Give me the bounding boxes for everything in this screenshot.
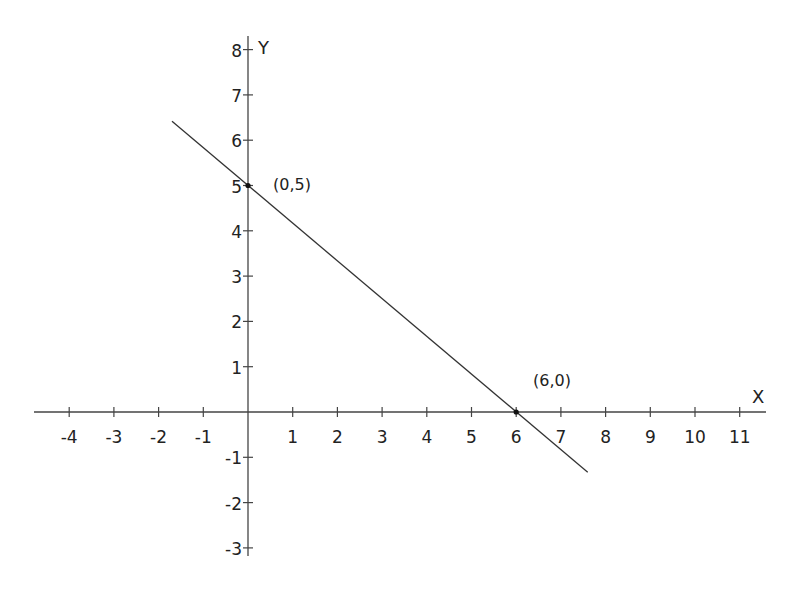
x-tick-label: 5 xyxy=(466,427,477,447)
y-axis-title: Y xyxy=(257,37,270,58)
x-tick-label: 11 xyxy=(729,427,751,447)
x-ticks: -4-3-2-11234567891011 xyxy=(61,407,751,447)
y-tick-label: -2 xyxy=(225,494,242,514)
y-tick-label: 3 xyxy=(231,267,242,287)
y-tick-label: 4 xyxy=(231,222,242,242)
x-tick-label: 8 xyxy=(600,427,611,447)
y-tick-label: 1 xyxy=(231,358,242,378)
line-series xyxy=(172,121,588,472)
y-tick-label: 8 xyxy=(231,41,242,61)
x-tick-label: 1 xyxy=(287,427,298,447)
coordinate-plane: -4-3-2-11234567891011 -3-2-112345678 X Y… xyxy=(0,0,808,592)
y-tick-label: 6 xyxy=(231,131,242,151)
point-label-x-intercept: (6,0) xyxy=(533,371,571,390)
y-tick-label: -3 xyxy=(225,539,242,559)
point-label-y-intercept: (0,5) xyxy=(273,175,311,194)
x-tick-label: -3 xyxy=(105,427,122,447)
x-tick-label: 6 xyxy=(511,427,522,447)
x-tick-label: 3 xyxy=(377,427,388,447)
y-tick-label: 2 xyxy=(231,312,242,332)
x-axis-title: X xyxy=(752,386,764,407)
x-tick-label: -1 xyxy=(195,427,212,447)
y-tick-label: -1 xyxy=(225,448,242,468)
x-tick-label: 10 xyxy=(684,427,706,447)
x-tick-label: 2 xyxy=(332,427,343,447)
point-intercept-y xyxy=(245,183,250,188)
x-tick-label: 9 xyxy=(645,427,656,447)
x-tick-label: -2 xyxy=(150,427,167,447)
x-tick-label: -4 xyxy=(61,427,78,447)
y-tick-label: 7 xyxy=(231,86,242,106)
y-ticks: -3-2-112345678 xyxy=(225,41,253,559)
x-tick-label: 7 xyxy=(555,427,566,447)
x-tick-label: 4 xyxy=(421,427,432,447)
point-intercept-x xyxy=(514,409,519,414)
